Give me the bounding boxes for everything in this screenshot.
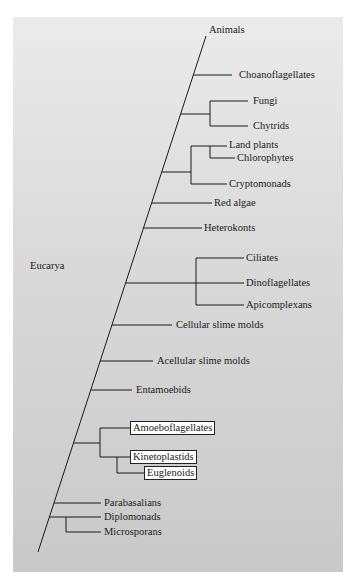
taxon-acellular-slime-molds: Acellular slime molds bbox=[157, 355, 250, 367]
taxon-cellular-slime-molds: Cellular slime molds bbox=[176, 319, 264, 331]
taxon-microsporans: Microsporans bbox=[104, 526, 162, 538]
taxon-ciliates: Ciliates bbox=[246, 252, 278, 264]
taxon-chlorophytes: Chlorophytes bbox=[237, 152, 294, 164]
taxon-apicomplexans: Apicomplexans bbox=[246, 299, 312, 311]
taxon-parabasalians: Parabasalians bbox=[104, 497, 161, 509]
taxon-diplomonads: Diplomonads bbox=[104, 511, 161, 523]
taxon-chytrids: Chytrids bbox=[253, 120, 289, 132]
taxon-kinetoplastids-highlighted: Kinetoplastids bbox=[130, 450, 197, 464]
taxon-amoeboflagellates-highlighted: Amoeboflagellates bbox=[130, 421, 215, 435]
taxon-fungi: Fungi bbox=[253, 95, 278, 107]
taxon-choanoflagellates: Choanoflagellates bbox=[239, 69, 315, 81]
taxon-entamoebids: Entamoebids bbox=[136, 384, 191, 396]
root-label-eucarya: Eucarya bbox=[30, 260, 64, 272]
taxon-animals: Animals bbox=[209, 24, 245, 36]
taxon-euglenoids-highlighted: Euglenoids bbox=[144, 466, 197, 480]
taxon-red-algae: Red algae bbox=[214, 197, 256, 209]
taxon-heterokonts: Heterokonts bbox=[204, 222, 255, 234]
tree-lines bbox=[0, 0, 362, 585]
taxon-land-plants: Land plants bbox=[229, 139, 278, 151]
taxon-dinoflagellates: Dinoflagellates bbox=[246, 277, 310, 289]
taxon-cryptomonads: Cryptomonads bbox=[229, 178, 291, 190]
